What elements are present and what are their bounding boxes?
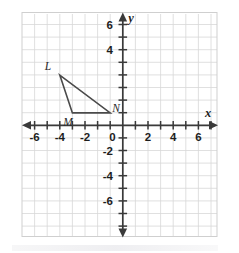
- origin-label: 0: [109, 131, 115, 143]
- x-tick-label-pos4: 4: [170, 131, 177, 143]
- vertex-label-n: N: [111, 102, 121, 114]
- y-axis-arrow-up: [119, 13, 128, 22]
- x-axis: [22, 121, 218, 130]
- x-tick-label-pos2: 2: [145, 131, 151, 143]
- coordinate-plane-figure: -6 -4 -2 0 2 4 6 6 4 -2 -4 -6 x y L M N: [0, 0, 239, 253]
- x-axis-arrow-left: [22, 121, 31, 130]
- x-tick-label-neg6: -6: [29, 131, 39, 143]
- y-tick-label-neg2: -2: [103, 145, 113, 157]
- y-tick-label-pos4: 4: [107, 44, 114, 56]
- y-tick-label-pos6: 6: [107, 19, 113, 31]
- x-tick-label-neg4: -4: [55, 131, 66, 143]
- page-edge-artifact: [12, 245, 218, 251]
- vertex-label-m: M: [62, 116, 74, 128]
- y-tick-label-neg6: -6: [103, 195, 113, 207]
- y-axis-name: y: [126, 11, 134, 25]
- coordinate-plane-svg: -6 -4 -2 0 2 4 6 6 4 -2 -4 -6 x y L M N: [0, 0, 239, 253]
- x-tick-label-pos6: 6: [195, 131, 201, 143]
- vertex-label-l: L: [44, 60, 51, 72]
- x-tick-label-neg2: -2: [80, 131, 90, 143]
- y-tick-label-neg4: -4: [103, 170, 114, 182]
- x-axis-name: x: [204, 106, 211, 120]
